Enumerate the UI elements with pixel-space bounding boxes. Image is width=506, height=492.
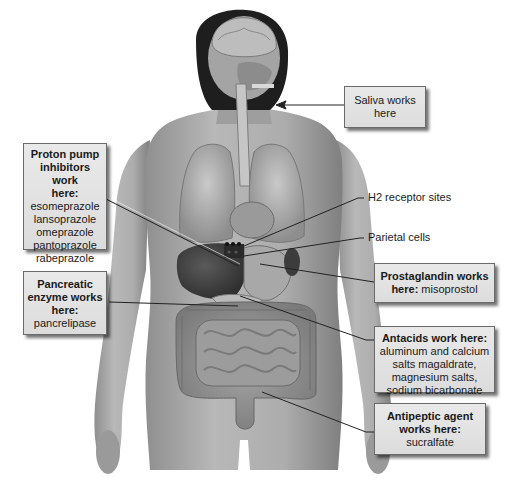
antacids-drug: aluminum and calcium bbox=[378, 345, 491, 358]
ppi-drug: pantoprazole bbox=[27, 239, 103, 252]
ppi-callout: Proton pump inhibitors work here: esomep… bbox=[23, 143, 107, 250]
saliva-callout-line-2: here bbox=[348, 107, 422, 120]
antacids-callout: Antacids work here: aluminum and calcium… bbox=[374, 326, 495, 393]
ppi-drug: esomeprazole bbox=[27, 200, 103, 213]
pancreatic-title-line-2: enzyme works bbox=[27, 291, 103, 304]
pancreatic-drug: pancrelipase bbox=[27, 317, 103, 330]
prostaglandin-title-line-1: Prostaglandin works bbox=[378, 270, 491, 283]
pancreatic-title-line-1: Pancreatic bbox=[27, 278, 103, 291]
pancreatic-callout: Pancreatic enzyme works here: pancrelipa… bbox=[23, 271, 107, 335]
h2-receptor-sites-label: H2 receptor sites bbox=[368, 191, 451, 204]
ppi-title-line-2: inhibitors work bbox=[27, 161, 103, 187]
antacids-drug: sodium bicarbonate bbox=[378, 384, 491, 397]
ppi-drug: rabeprazole bbox=[27, 252, 103, 265]
antipeptic-title-line-2: works here: bbox=[378, 423, 482, 436]
prostaglandin-title-line-2: here: misoprostol bbox=[378, 283, 491, 296]
antipeptic-title-line-1: Antipeptic agent bbox=[378, 410, 482, 423]
saliva-arrowhead bbox=[276, 101, 286, 109]
antacids-drug: salts magaldrate, bbox=[378, 358, 491, 371]
saliva-callout: Saliva works here bbox=[344, 86, 426, 128]
ppi-drug: lansoprazole bbox=[27, 213, 103, 226]
antacids-title: Antacids work here: bbox=[378, 332, 491, 345]
prostaglandin-title-inline: here: bbox=[391, 283, 418, 295]
ppi-title-line-1: Proton pump bbox=[27, 148, 103, 161]
ppi-title-line-3: here: bbox=[27, 187, 103, 200]
parietal-cells-label: Parietal cells bbox=[368, 231, 430, 244]
antacids-drug: magnesium salts, bbox=[378, 371, 491, 384]
prostaglandin-drug: misoprostol bbox=[421, 283, 477, 295]
pancreatic-title-line-3: here: bbox=[27, 304, 103, 317]
ppi-drug: omeprazole bbox=[27, 226, 103, 239]
antipeptic-drug: sucralfate bbox=[378, 436, 482, 449]
saliva-callout-line-1: Saliva works bbox=[348, 94, 422, 107]
prostaglandin-callout: Prostaglandin works here: misoprostol bbox=[374, 263, 495, 303]
antipeptic-callout: Antipeptic agent works here: sucralfate bbox=[374, 403, 486, 455]
